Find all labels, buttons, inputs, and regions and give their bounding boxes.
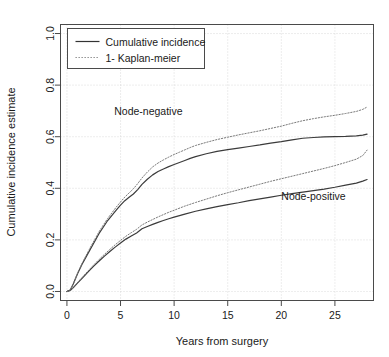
x-tick-label: 5	[118, 309, 124, 321]
y-tick-label: 0.0	[45, 284, 57, 299]
y-tick-label: 1.0	[45, 26, 57, 41]
x-axis-label: Years from surgery	[176, 335, 269, 347]
legend: Cumulative incidence1- Kaplan-meier	[68, 29, 206, 69]
curve-annotation-label: Node-negative	[114, 105, 182, 117]
chart-container: 0510152025 0.00.20.40.60.81.0 Node-negat…	[0, 0, 389, 357]
y-tick-label: 0.4	[45, 181, 57, 196]
curve-annotation-label: Node-positive	[281, 190, 345, 202]
y-tick-label: 0.8	[45, 78, 57, 93]
x-tick-label: 10	[168, 309, 180, 321]
y-axis-label: Cumulative incidence estimate	[5, 87, 17, 236]
legend-entry-label: Cumulative incidence	[106, 36, 206, 48]
cumulative-incidence-chart: 0510152025 0.00.20.40.60.81.0 Node-negat…	[0, 0, 389, 357]
x-tick-label: 15	[222, 309, 234, 321]
y-tick-label: 0.6	[45, 129, 57, 144]
x-tick-label: 25	[329, 309, 341, 321]
legend-entry-label: 1- Kaplan-meier	[106, 52, 181, 64]
x-tick-label: 20	[275, 309, 287, 321]
y-tick-label: 0.2	[45, 232, 57, 247]
x-tick-label: 0	[64, 309, 70, 321]
